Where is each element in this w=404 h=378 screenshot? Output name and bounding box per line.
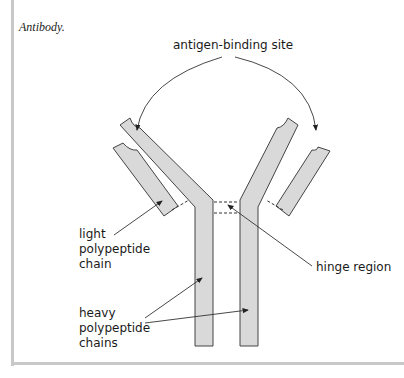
left-light-chain [113,143,178,216]
light-chain-pointer [114,201,162,235]
heavy-chains-label-line1: heavy [79,306,116,320]
light-chain-label-line3: chain [79,257,112,271]
light-chain-label-line1: light [79,227,106,241]
right-heavy-chain [240,118,298,346]
antigen-site-right-arrow [235,57,316,130]
antigen-site-left-arrow [137,57,222,130]
hinge-region-label: hinge region [316,260,391,274]
heavy-chains-label-line3: chains [79,336,118,350]
right-light-chain [276,147,330,216]
disulfide-bonds [172,200,283,213]
heavy-chains-label-line2: polypeptide [79,321,150,335]
antigen-binding-site-label: antigen-binding site [173,38,293,52]
light-chain-label-line2: polypeptide [79,242,150,256]
heavy-chain-pointer-left [145,278,202,318]
antibody-diagram: antigen-binding site light polypeptide c… [0,0,404,378]
